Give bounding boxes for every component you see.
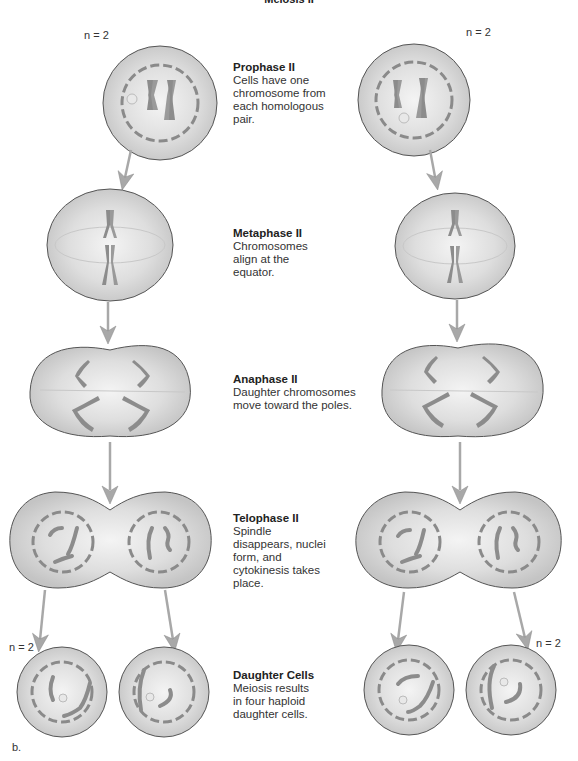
ploidy-label-top-right: n = 2 — [466, 26, 491, 38]
prophase-cell-left — [103, 46, 217, 160]
telophase-cell-left — [10, 492, 211, 588]
daughter-cell-2 — [119, 647, 209, 737]
caption-telophase-ii: Telophase II Spindle disappears, nuclei … — [233, 512, 383, 590]
daughter-cell-4 — [466, 645, 556, 735]
stage-description: Cells have one chromosome from each homo… — [233, 74, 328, 126]
metaphase-cell-right — [395, 193, 515, 299]
ploidy-label-bottom-left: n = 2 — [9, 641, 34, 653]
ploidy-label-bottom-right: n = 2 — [536, 637, 561, 649]
stage-description: Meiosis results in four haploid daughter… — [233, 682, 318, 721]
stage-name: Daughter Cells — [233, 669, 383, 682]
caption-daughter-cells: Daughter Cells Meiosis results in four h… — [233, 669, 383, 721]
metaphase-cell-left — [47, 189, 173, 301]
anaphase-cell-right — [382, 344, 543, 437]
caption-prophase-ii: Prophase II Cells have one chromosome fr… — [233, 61, 383, 126]
stage-name: Metaphase II — [233, 227, 383, 240]
stage-name: Telophase II — [233, 512, 383, 525]
caption-metaphase-ii: Metaphase II Chromosomes align at the eq… — [233, 227, 383, 279]
stage-description: Chromosomes align at the equator. — [233, 240, 333, 279]
stage-name: Prophase II — [233, 61, 383, 74]
anaphase-cell-left — [30, 346, 191, 437]
caption-anaphase-ii: Anaphase II Daughter chromosomes move to… — [233, 373, 383, 412]
stage-description: Daughter chromosomes move toward the pol… — [233, 386, 363, 412]
ploidy-label-top-left: n = 2 — [84, 29, 109, 41]
stage-description: Spindle disappears, nuclei form, and cyt… — [233, 525, 333, 590]
stage-name: Anaphase II — [233, 373, 383, 386]
daughter-cell-1 — [17, 647, 107, 737]
telophase-cell-right — [356, 492, 561, 588]
panel-letter: b. — [12, 741, 21, 753]
